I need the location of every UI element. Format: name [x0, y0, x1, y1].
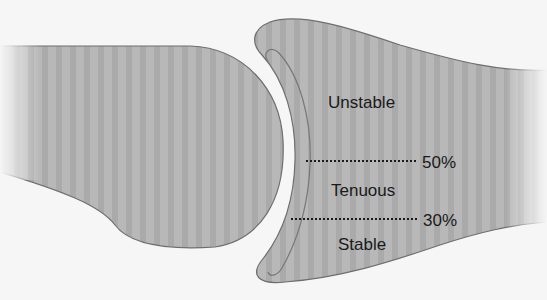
zone-label-unstable: Unstable — [328, 94, 395, 111]
left-bone-head — [0, 46, 283, 248]
bone-illustration — [0, 0, 547, 300]
threshold-label-50: 50% — [422, 154, 456, 171]
threshold-label-30: 30% — [423, 212, 457, 229]
joint-stability-diagram: Unstable 50% Tenuous 30% Stable — [0, 0, 547, 300]
zone-label-stable: Stable — [338, 236, 386, 253]
zone-label-tenuous: Tenuous — [331, 182, 395, 199]
right-bone-base — [255, 19, 547, 283]
